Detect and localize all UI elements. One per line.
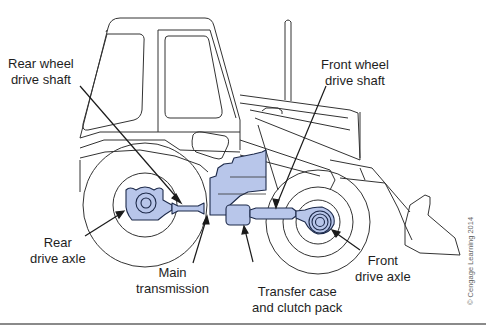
label-front-drive-axle: Front drive axle [355,253,411,285]
label-line: Rear [30,235,86,251]
label-line: drive axle [30,251,86,267]
loader-arm [330,160,410,212]
copyright-notice: © Cengage Learning 2014 [466,217,475,305]
leader-transfer-case [245,230,253,262]
transfer-case [226,205,250,225]
exhaust-stack [285,20,291,101]
cab-outline [80,18,240,150]
label-line: Rear wheel [8,56,74,72]
label-line: Main [136,265,209,281]
drive-train-diagram: Rear wheel drive shaft Front wheel drive… [0,0,486,329]
cab-left-window [83,34,144,130]
label-transfer-case: Transfer case and clutch pack [252,284,342,316]
rear-axle-housing [126,187,172,220]
leader-rear-shaft [80,86,178,199]
label-line: drive shaft [8,72,74,88]
leader-front-axle [336,233,360,250]
label-line: drive axle [355,269,411,285]
hood [240,95,360,160]
label-line: Front [355,253,411,269]
label-line: drive shaft [321,73,389,89]
leader-rear-axle [85,214,120,236]
label-line: Transfer case [252,284,342,300]
label-line: transmission [136,281,209,297]
cab-door-window [165,36,222,118]
label-line: Front wheel [321,57,389,73]
label-main-transmission: Main transmission [136,265,209,297]
label-line: and clutch pack [252,300,342,316]
front-drive-shaft [250,208,296,219]
bottom-rule [0,323,486,325]
label-rear-drive-axle: Rear drive axle [30,235,86,267]
front-axle-housing [296,207,334,234]
label-rear-wheel-drive-shaft: Rear wheel drive shaft [8,56,74,88]
loader-illustration [0,0,486,329]
label-front-wheel-drive-shaft: Front wheel drive shaft [321,57,389,89]
loader-bucket [405,195,460,255]
